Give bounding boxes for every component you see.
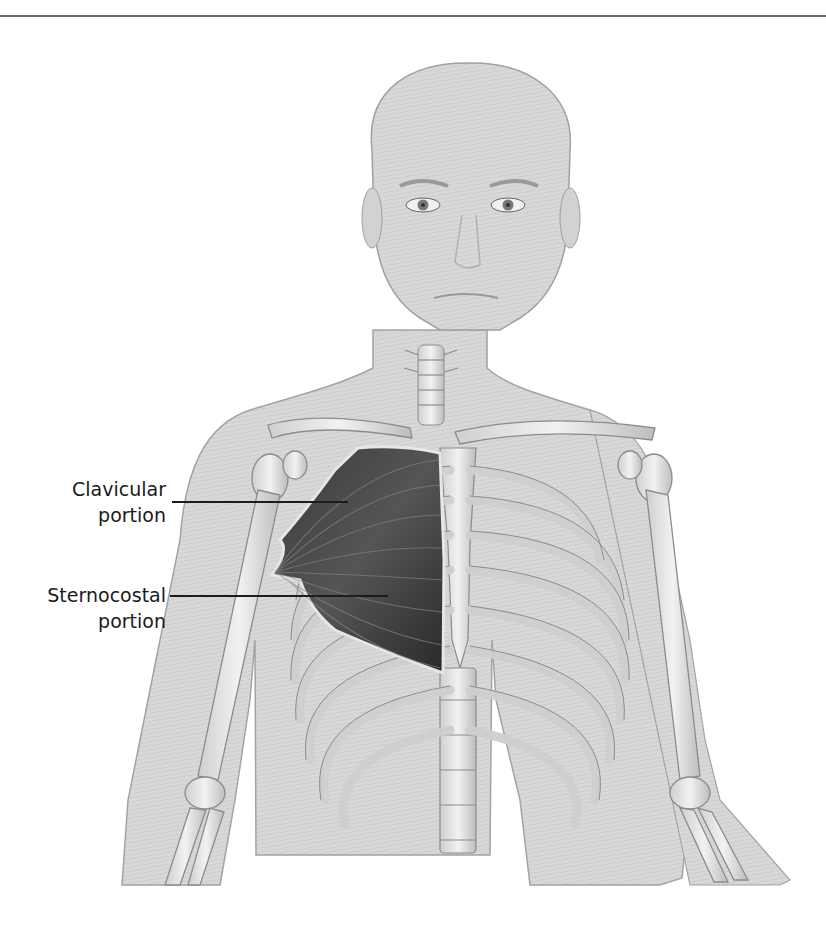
- label-sternocostal-portion: Sternocostal portion: [20, 582, 166, 634]
- label-clavicular-portion: Clavicular portion: [40, 476, 166, 528]
- label-line2: portion: [40, 502, 166, 528]
- leader-line-clavicular: [172, 501, 348, 503]
- head: [362, 63, 580, 330]
- anatomy-illustration: [0, 0, 826, 932]
- bottom-fade: [0, 780, 826, 932]
- label-line1: Sternocostal: [20, 582, 166, 608]
- leader-line-sternocostal: [170, 595, 388, 597]
- label-line1: Clavicular: [40, 476, 166, 502]
- label-line2: portion: [20, 608, 166, 634]
